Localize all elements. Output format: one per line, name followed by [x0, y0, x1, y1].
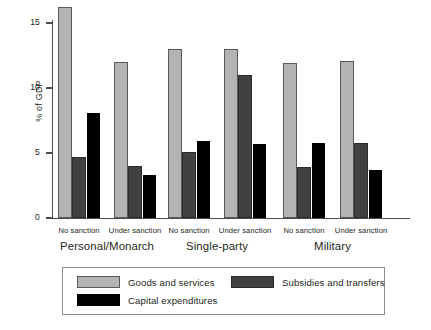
legend-swatch — [77, 276, 120, 288]
legend-item: Goods and services — [77, 276, 215, 288]
plot-area — [52, 22, 410, 218]
legend-swatch — [231, 276, 274, 288]
bar — [128, 166, 142, 218]
y-tick-label-15: 15 — [26, 17, 40, 27]
x-sublabel: Under sanction — [321, 226, 401, 235]
legend-item: Capital expenditures — [77, 294, 217, 306]
bar — [283, 63, 297, 218]
bar — [369, 170, 383, 218]
bar — [340, 61, 354, 218]
legend-item: Subsidies and transfers — [231, 276, 385, 288]
bar — [58, 7, 72, 218]
legend-label: Capital expenditures — [128, 295, 217, 306]
bar — [197, 141, 211, 218]
bar — [168, 49, 182, 218]
y-tick-label-0: 0 — [26, 212, 40, 222]
chart-legend: Goods and servicesSubsidies and transfer… — [62, 267, 385, 315]
legend-swatch — [77, 294, 120, 306]
bar — [182, 152, 196, 218]
x-axis-line — [52, 218, 410, 219]
legend-label: Goods and services — [128, 277, 215, 288]
bar — [114, 62, 128, 218]
bar — [238, 75, 252, 218]
bar — [354, 143, 368, 218]
chart-figure: % of GDP 051015 No sanctionUnder sanctio… — [0, 0, 431, 330]
bar — [72, 157, 86, 218]
y-axis-title: % of GDP — [34, 56, 44, 146]
bar — [224, 49, 238, 218]
y-tick-label-5: 5 — [26, 147, 40, 157]
bar — [312, 143, 326, 218]
bar — [87, 113, 101, 218]
legend-label: Subsidies and transfers — [282, 277, 385, 288]
bar — [143, 175, 157, 218]
x-group-label: Military — [263, 240, 403, 252]
bar — [253, 144, 267, 218]
y-tick-label-10: 10 — [26, 82, 40, 92]
bar — [297, 167, 311, 218]
